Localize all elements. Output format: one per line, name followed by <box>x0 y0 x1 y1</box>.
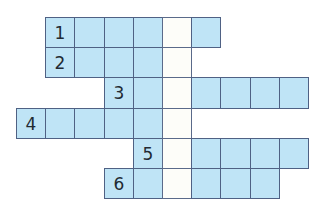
answer-cell[interactable] <box>74 17 105 48</box>
answer-cell[interactable] <box>191 17 221 48</box>
clue-number-cell-1[interactable]: 1 <box>45 17 75 48</box>
answer-cell[interactable] <box>133 108 163 139</box>
key-column-cell[interactable] <box>162 47 192 78</box>
clue-number-cell-4[interactable]: 4 <box>16 108 46 139</box>
answer-cell[interactable] <box>133 77 163 109</box>
answer-cell[interactable] <box>74 108 105 139</box>
key-column-cell[interactable] <box>162 138 192 169</box>
clue-number: 6 <box>114 174 125 194</box>
answer-cell[interactable] <box>133 47 163 78</box>
clue-number: 4 <box>26 114 37 134</box>
answer-cell[interactable] <box>191 77 221 109</box>
answer-cell[interactable] <box>191 138 221 169</box>
answer-cell[interactable] <box>191 168 221 199</box>
key-column-cell[interactable] <box>162 168 192 199</box>
answer-cell[interactable] <box>45 108 75 139</box>
clue-number-cell-2[interactable]: 2 <box>45 47 75 78</box>
answer-cell[interactable] <box>220 168 251 199</box>
answer-cell[interactable] <box>133 168 163 199</box>
answer-cell[interactable] <box>220 77 251 109</box>
clue-number: 1 <box>55 23 66 43</box>
answer-cell[interactable] <box>104 17 134 48</box>
answer-cell[interactable] <box>279 77 309 109</box>
clue-number-cell-3[interactable]: 3 <box>104 77 134 109</box>
clue-number: 3 <box>114 83 125 103</box>
clue-number-cell-5[interactable]: 5 <box>133 138 163 169</box>
crossword-grid: 123456 <box>0 0 327 210</box>
key-column-cell[interactable] <box>162 17 192 48</box>
answer-cell[interactable] <box>104 108 134 139</box>
clue-number: 2 <box>55 53 66 73</box>
answer-cell[interactable] <box>279 138 309 169</box>
answer-cell[interactable] <box>133 17 163 48</box>
clue-number: 5 <box>143 144 154 164</box>
answer-cell[interactable] <box>250 168 280 199</box>
clue-number-cell-6[interactable]: 6 <box>104 168 134 199</box>
answer-cell[interactable] <box>74 47 105 78</box>
answer-cell[interactable] <box>220 138 251 169</box>
answer-cell[interactable] <box>250 77 280 109</box>
answer-cell[interactable] <box>104 47 134 78</box>
key-column-cell[interactable] <box>162 108 192 139</box>
key-column-cell[interactable] <box>162 77 192 109</box>
answer-cell[interactable] <box>250 138 280 169</box>
